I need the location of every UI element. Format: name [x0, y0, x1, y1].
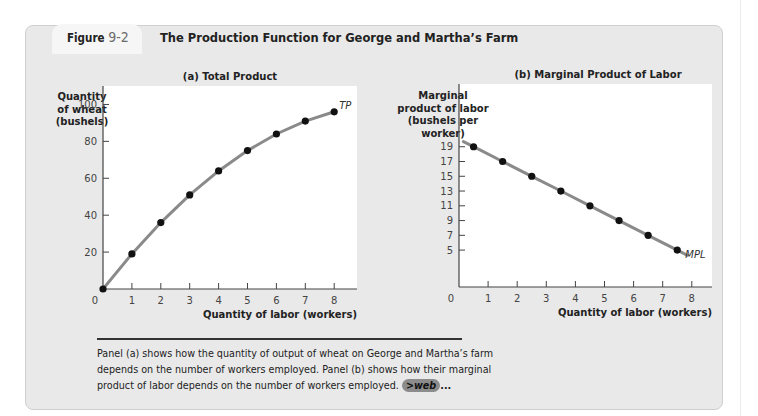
- panel-title: (a) Total Product: [183, 71, 278, 82]
- x-tick-label: 3: [543, 293, 549, 304]
- y-tick-label: 80: [84, 136, 97, 147]
- web-link-ellipsis: ...: [440, 380, 451, 391]
- curve-label: MPL: [685, 249, 705, 260]
- x-tick-label: 1: [129, 295, 135, 306]
- panel-title: (b) Marginal Product of Labor: [514, 69, 681, 80]
- data-point: [99, 285, 106, 292]
- y-axis-label: (bushels): [56, 116, 109, 127]
- y-tick-label: 7: [447, 230, 453, 241]
- y-axis-label: Marginal: [418, 90, 468, 101]
- y-tick-label: 17: [440, 156, 453, 167]
- data-point: [128, 250, 135, 257]
- x-tick-label: 7: [660, 293, 666, 304]
- data-point: [273, 130, 280, 137]
- web-link-button[interactable]: >web: [402, 379, 440, 392]
- y-tick-label: 100: [78, 99, 97, 110]
- data-point: [302, 117, 309, 124]
- y-tick-label: 40: [84, 210, 97, 221]
- data-point: [645, 232, 652, 239]
- x-tick-label: 8: [331, 295, 337, 306]
- y-tick-label: 19: [440, 141, 453, 152]
- x-tick-label: 4: [215, 295, 221, 306]
- y-tick-label: 60: [84, 173, 97, 184]
- figure-caption: Panel (a) shows how the quantity of outp…: [97, 346, 517, 394]
- x-tick-label: 8: [689, 293, 695, 304]
- data-point: [186, 191, 193, 198]
- y-tick-label: 11: [440, 200, 453, 211]
- y-tick-label: 9: [447, 215, 453, 226]
- y-axis-label: (bushels per: [408, 115, 479, 126]
- data-point: [499, 158, 506, 165]
- curve-label: TP: [339, 100, 352, 111]
- origin-label: 0: [448, 293, 454, 304]
- x-tick-label: 2: [158, 295, 164, 306]
- y-tick-label: 13: [440, 186, 453, 197]
- x-tick-label: 5: [244, 295, 250, 306]
- x-axis-label: Quantity of labor (workers): [558, 307, 712, 318]
- x-tick-label: 6: [630, 293, 636, 304]
- data-point: [215, 167, 222, 174]
- data-point: [331, 108, 338, 115]
- data-point: [674, 246, 681, 253]
- web-link-label: web: [414, 380, 436, 391]
- y-axis-label: worker): [421, 128, 465, 139]
- web-arrow-icon: >: [406, 380, 414, 391]
- data-point: [615, 217, 622, 224]
- data-point: [157, 219, 164, 226]
- x-axis-label: Quantity of labor (workers): [203, 309, 357, 320]
- caption-divider: [97, 338, 462, 340]
- y-axis-label: product of labor: [397, 103, 488, 114]
- data-point: [470, 143, 477, 150]
- x-tick-label: 3: [187, 295, 193, 306]
- data-point: [244, 147, 251, 154]
- data-point: [586, 202, 593, 209]
- x-tick-label: 2: [514, 293, 520, 304]
- x-tick-label: 4: [572, 293, 578, 304]
- x-tick-label: 1: [485, 293, 491, 304]
- x-tick-label: 5: [601, 293, 607, 304]
- origin-label: 0: [92, 295, 98, 306]
- x-tick-label: 6: [273, 295, 279, 306]
- y-tick-label: 5: [447, 245, 453, 256]
- data-point: [528, 173, 535, 180]
- y-tick-label: 15: [440, 171, 453, 182]
- y-tick-label: 20: [84, 247, 97, 258]
- plot-area-1: [459, 84, 712, 287]
- data-point: [557, 187, 564, 194]
- x-tick-label: 7: [302, 295, 308, 306]
